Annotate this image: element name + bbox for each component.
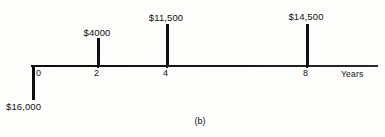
year-tick-label: 0 (36, 68, 41, 78)
amount-label: $14,500 (288, 11, 323, 22)
cash-flow-figure: $16,0000$40002$11,5004$14,5008 Years (b) (0, 0, 385, 137)
amount-label: $16,000 (6, 101, 41, 112)
amount-label: $4000 (84, 27, 111, 38)
figure-caption: (b) (195, 116, 206, 126)
year-tick-label: 2 (94, 68, 99, 78)
year-tick-label: 4 (163, 68, 168, 78)
axis-title-years: Years (341, 69, 363, 79)
cash-flow-bar (32, 66, 35, 100)
year-tick-label: 8 (303, 68, 308, 78)
cash-flow-bar (306, 24, 309, 66)
timeline-axis (31, 65, 378, 67)
cash-flow-bar (97, 38, 100, 66)
cash-flow-bar (166, 24, 169, 66)
amount-label: $11,500 (149, 12, 183, 23)
